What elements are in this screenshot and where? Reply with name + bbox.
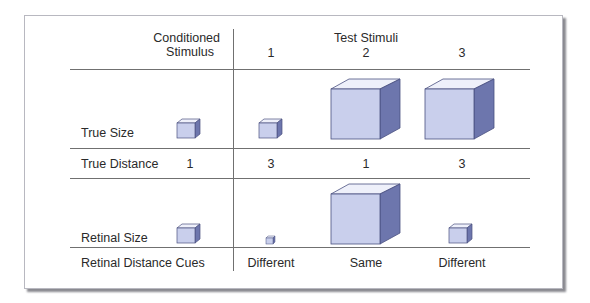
- retinal-cues-test-1: Different: [247, 256, 294, 270]
- test-col-3: 3: [459, 46, 466, 60]
- test-col-1: 1: [268, 46, 275, 60]
- column-divider: [233, 29, 234, 271]
- true-size-divider: [70, 148, 530, 149]
- cube-icon-test3-retinal: [448, 223, 474, 245]
- retinal-size-label: Retinal Size: [81, 231, 148, 245]
- retinal-size-divider: [70, 247, 530, 248]
- true-distance-conditioned: 1: [187, 157, 194, 171]
- test-col-2: 2: [363, 46, 370, 60]
- cube-icon-conditioned-retinal: [176, 223, 202, 245]
- cube-icon-conditioned-true: [176, 118, 202, 140]
- conditioned-header-line1: Conditioned: [110, 31, 220, 45]
- cube-icon-test1-retinal: [265, 235, 277, 245]
- test-stimuli-header: Test Stimuli: [334, 31, 398, 45]
- retinal-cues-test-2: Same: [350, 256, 383, 270]
- true-distance-test-3: 3: [459, 157, 466, 171]
- retinal-distance-cues-label: Retinal Distance Cues: [81, 256, 205, 270]
- true-distance-test-2: 1: [363, 157, 370, 171]
- cube-icon-test2-retinal: [330, 183, 402, 246]
- retinal-cues-test-3: Different: [438, 256, 485, 270]
- cube-icon-test1-true: [258, 118, 284, 140]
- cube-icon-test2-true: [330, 78, 402, 141]
- conditioned-header-line2: Stimulus: [110, 45, 214, 59]
- header-divider: [70, 69, 530, 70]
- true-distance-label: True Distance: [81, 157, 158, 171]
- true-size-label: True Size: [81, 126, 134, 140]
- cube-icon-test3-true: [424, 78, 496, 141]
- true-distance-divider: [70, 178, 530, 179]
- true-distance-test-1: 3: [268, 157, 275, 171]
